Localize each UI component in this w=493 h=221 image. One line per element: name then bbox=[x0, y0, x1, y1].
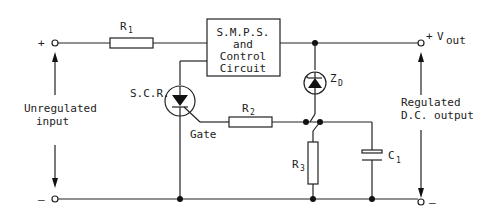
r3-sub: 3 bbox=[300, 164, 305, 173]
r1-label: R bbox=[120, 20, 127, 33]
unregulated-label-1: Unregulated bbox=[24, 102, 97, 115]
output-minus-terminal bbox=[418, 199, 424, 205]
smps-line-4: Circuit bbox=[220, 62, 266, 75]
r1-sub: 1 bbox=[128, 26, 133, 35]
output-minus-label: – bbox=[429, 196, 436, 209]
r2-label: R bbox=[242, 102, 249, 115]
vout-label: V bbox=[437, 30, 444, 43]
gate-label: Gate bbox=[190, 128, 217, 141]
input-minus-label: – bbox=[38, 193, 45, 206]
input-plus-label: + bbox=[38, 37, 45, 50]
regulated-label-2: D.C. output bbox=[401, 109, 474, 122]
capacitor-c1-icon bbox=[362, 150, 382, 160]
regulated-label-1: Regulated bbox=[401, 96, 461, 109]
input-minus-terminal bbox=[52, 196, 58, 202]
scr-icon bbox=[165, 86, 200, 122]
r3-resistor bbox=[308, 142, 318, 184]
vout-sub-label: out bbox=[446, 34, 466, 47]
output-plus-terminal bbox=[418, 40, 424, 46]
unregulated-label-2: input bbox=[36, 115, 69, 128]
c1-sub: 1 bbox=[396, 156, 401, 165]
c1-label: C bbox=[388, 149, 395, 162]
input-plus-terminal bbox=[52, 40, 58, 46]
scr-label: S.C.R. bbox=[130, 87, 170, 100]
zd-label: Z bbox=[330, 72, 337, 85]
r2-sub: 2 bbox=[250, 108, 255, 117]
zener-diode-icon bbox=[304, 72, 326, 94]
r3-label: R bbox=[292, 158, 299, 171]
output-plus-label: + bbox=[426, 30, 433, 43]
output-arrow-icon bbox=[418, 52, 424, 198]
circuit-diagram: + – + V out – Unregulated input Regulate… bbox=[0, 0, 493, 221]
r2-resistor bbox=[229, 117, 272, 127]
r1-resistor bbox=[110, 38, 153, 48]
zd-sub: D bbox=[338, 79, 343, 88]
